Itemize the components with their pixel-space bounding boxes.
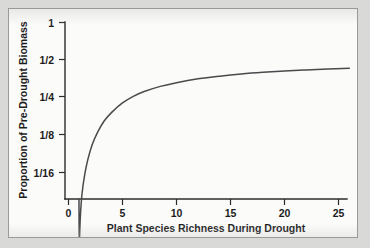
x-axis-title: Plant Species Richness During Drought — [107, 222, 306, 234]
y-axis-title: Proportion of Pre-Drought Biomass — [17, 21, 29, 198]
y-tick-label: 1/8 — [39, 129, 54, 141]
figure-frame: 1 1/2 1/4 1/8 1/16 0 5 10 15 20 25 Plant… — [8, 8, 358, 238]
x-tick-group — [69, 199, 339, 205]
x-tick-label: 20 — [279, 207, 291, 219]
y-tick-label: 1/2 — [39, 54, 54, 66]
x-tick-label: 25 — [333, 207, 345, 219]
y-tick-label: 1 — [48, 17, 54, 29]
x-tick-label: 5 — [120, 207, 126, 219]
x-tick-labels: 0 5 10 15 20 25 — [66, 207, 345, 219]
x-tick-label: 15 — [225, 207, 237, 219]
x-tick-label: 0 — [66, 207, 72, 219]
y-tick-label: 1/16 — [34, 167, 55, 179]
y-tick-label: 1/4 — [39, 91, 54, 103]
y-tick-group — [59, 23, 65, 173]
chart-canvas: 1 1/2 1/4 1/8 1/16 0 5 10 15 20 25 Plant… — [9, 9, 358, 238]
x-tick-label: 10 — [171, 207, 183, 219]
y-tick-labels: 1 1/2 1/4 1/8 1/16 — [34, 17, 55, 179]
